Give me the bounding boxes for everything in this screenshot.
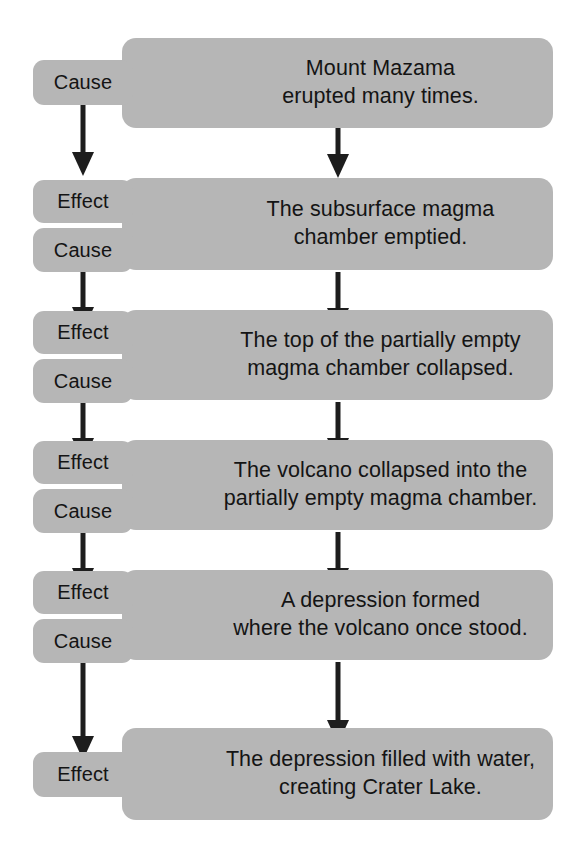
tag-effect-4: Effect	[33, 441, 133, 484]
tag-label: Effect	[57, 581, 108, 604]
tag-effect-6: Effect	[33, 752, 133, 797]
statement-box-3: The top of the partially empty magma cha…	[122, 310, 553, 400]
tag-effect-3: Effect	[33, 311, 133, 354]
tag-label: Effect	[57, 451, 108, 474]
tag-cause-5: Cause	[33, 619, 133, 663]
statement-box-6: The depression filled with water, creati…	[122, 728, 553, 820]
statement-box-4: The volcano collapsed into the partially…	[122, 440, 553, 530]
tag-effect-5: Effect	[33, 571, 133, 614]
statement-box-1: Mount Mazama erupted many times.	[122, 38, 553, 128]
cause-effect-flowchart: Mount Mazama erupted many times. Cause T…	[0, 0, 581, 852]
tag-effect-2: Effect	[33, 180, 133, 223]
tag-cause-4: Cause	[33, 489, 133, 533]
tag-label: Effect	[57, 190, 108, 213]
arrow-left-1	[70, 100, 96, 178]
statement-text-4: The volcano collapsed into the partially…	[224, 457, 538, 513]
statement-text-5: A depression formed where the volcano on…	[233, 587, 528, 643]
tag-label: Cause	[54, 71, 112, 94]
tag-cause-2: Cause	[33, 228, 133, 272]
statement-text-2: The subsurface magma chamber emptied.	[267, 196, 495, 252]
statement-box-5: A depression formed where the volcano on…	[122, 570, 553, 660]
tag-label: Cause	[54, 500, 112, 523]
arrow-left-5	[70, 656, 96, 762]
tag-cause-1: Cause	[33, 60, 133, 105]
statement-text-3: The top of the partially empty magma cha…	[240, 327, 520, 383]
tag-label: Effect	[57, 321, 108, 344]
tag-label: Cause	[54, 239, 112, 262]
tag-label: Cause	[54, 370, 112, 393]
tag-label: Effect	[57, 763, 108, 786]
statement-box-2: The subsurface magma chamber emptied.	[122, 178, 553, 270]
tag-cause-3: Cause	[33, 359, 133, 403]
statement-text-1: Mount Mazama erupted many times.	[282, 55, 479, 111]
statement-text-6: The depression filled with water, creati…	[226, 746, 535, 802]
tag-label: Cause	[54, 630, 112, 653]
